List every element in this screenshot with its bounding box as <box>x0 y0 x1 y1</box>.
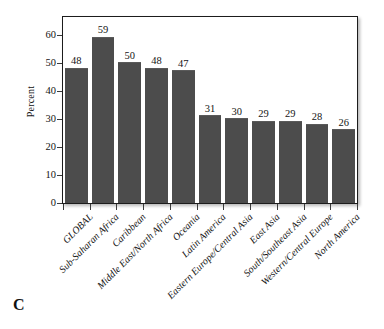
x-tick-mark <box>63 204 64 210</box>
bar-slot[interactable]: 59 <box>90 17 117 203</box>
x-tick-mark <box>116 204 117 210</box>
bar[interactable] <box>172 70 195 203</box>
bar-value-label: 59 <box>98 25 109 36</box>
bar-value-label: 48 <box>71 56 82 67</box>
x-tick-mark <box>357 204 358 210</box>
bar[interactable] <box>145 68 168 203</box>
bar-value-label: 48 <box>151 56 162 67</box>
bar[interactable] <box>279 121 302 203</box>
bar-value-label: 28 <box>312 112 323 123</box>
bar[interactable] <box>92 37 115 203</box>
y-tick-label: 20 <box>32 142 56 153</box>
bar-value-label: 29 <box>258 109 269 120</box>
bar-value-label: 30 <box>231 107 242 118</box>
x-tick-mark <box>277 204 278 210</box>
bar-value-label: 31 <box>205 104 216 115</box>
bar-value-label: 26 <box>338 118 349 129</box>
bar-slot[interactable]: 48 <box>143 17 170 203</box>
x-tick-mark <box>223 204 224 210</box>
panel-letter: C <box>13 296 25 314</box>
y-tick-label: 40 <box>32 86 56 97</box>
bar-value-label: 29 <box>285 109 296 120</box>
y-tick-label: 10 <box>32 170 56 181</box>
bar-slot[interactable]: 47 <box>170 17 197 203</box>
bar-value-label: 50 <box>125 51 136 62</box>
y-tick-label: 60 <box>32 30 56 41</box>
bar-slot[interactable]: 48 <box>63 17 90 203</box>
bar-chart-figure: Percent 0102030405060 485950484731302929… <box>0 0 384 329</box>
bar[interactable] <box>199 115 222 203</box>
x-tick-mark <box>250 204 251 210</box>
y-axis-title: Percent <box>25 62 36 142</box>
bars-layer: 4859504847313029292826 <box>63 17 357 203</box>
x-tick-mark <box>330 204 331 210</box>
x-tick-mark <box>304 204 305 210</box>
x-tick-mark <box>197 204 198 210</box>
bar[interactable] <box>65 68 88 203</box>
bar[interactable] <box>252 121 275 203</box>
y-tick-label: 0 <box>32 198 56 209</box>
bar[interactable] <box>225 118 248 203</box>
bar-slot[interactable]: 31 <box>197 17 224 203</box>
bar-slot[interactable]: 30 <box>223 17 250 203</box>
y-tick-label: 30 <box>32 114 56 125</box>
bar-value-label: 47 <box>178 59 189 70</box>
x-tick-mark <box>90 204 91 210</box>
x-tick-mark <box>143 204 144 210</box>
bar-slot[interactable]: 28 <box>304 17 331 203</box>
bar[interactable] <box>118 62 141 203</box>
y-tick-label: 50 <box>32 58 56 69</box>
bar[interactable] <box>306 124 329 203</box>
bar-slot[interactable]: 29 <box>277 17 304 203</box>
bar[interactable] <box>332 129 355 203</box>
bar-slot[interactable]: 50 <box>116 17 143 203</box>
x-tick-mark <box>170 204 171 210</box>
bar-slot[interactable]: 29 <box>250 17 277 203</box>
bar-slot[interactable]: 26 <box>330 17 357 203</box>
